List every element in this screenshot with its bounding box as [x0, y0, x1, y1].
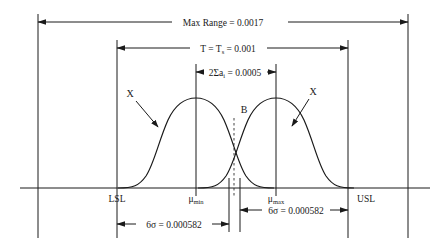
axis-label-usl: USL	[357, 194, 375, 204]
dimension-tolerance: T = Ts = 0.001	[117, 44, 348, 55]
dimension-label-six-sigma-right: 6σ = 0.000582	[268, 206, 324, 216]
axis-label-mu-min-sub: min	[193, 198, 204, 205]
leader-arrow-x-left	[136, 101, 158, 127]
dimension-label-tolerance: T = Ts = 0.001	[200, 44, 256, 55]
dimension-label-tolerance-tail: = 0.001	[224, 44, 256, 54]
axis-label-mu-max-sub: max	[273, 198, 285, 205]
curve-label-x-right: X	[309, 86, 317, 97]
dimension-label-two-sigma-a: 2Σai = 0.0005	[209, 68, 262, 79]
statistical-tolerance-diagram: Max Range = 0.0017 T = Ts = 0.001 2Σai =…	[0, 0, 448, 248]
dimension-max-range: Max Range = 0.0017	[38, 18, 408, 28]
axis-label-lsl: LSL	[109, 194, 126, 204]
distribution-curves	[118, 98, 354, 188]
leader-arrow-x-right	[292, 99, 309, 126]
dimension-six-sigma-right: 6σ = 0.000582	[240, 206, 348, 216]
region-label-b: B	[241, 104, 248, 115]
diagram-canvas: Max Range = 0.0017 T = Ts = 0.001 2Σai =…	[0, 0, 448, 248]
dimension-label-max-range: Max Range = 0.0017	[183, 18, 264, 28]
dimension-label-tolerance-main: T = T	[200, 44, 222, 54]
curve-label-x-left: X	[126, 88, 134, 99]
dimension-six-sigma-left: 6σ = 0.000582	[117, 220, 229, 230]
dimension-two-sigma-a: 2Σai = 0.0005	[196, 68, 276, 79]
dimension-label-two-sigma-a-main: 2Σa	[209, 68, 224, 78]
curve-leader-arrows	[136, 99, 309, 127]
dimension-label-six-sigma-left: 6σ = 0.000582	[146, 220, 202, 230]
dimension-label-two-sigma-a-tail: = 0.0005	[225, 68, 261, 78]
